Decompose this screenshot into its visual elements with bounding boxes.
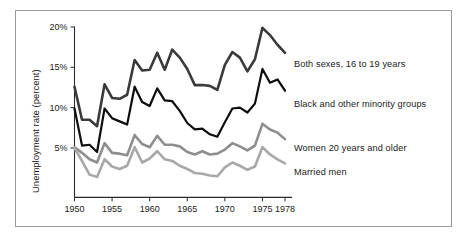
series-line-1 xyxy=(75,69,286,152)
line-chart-plot xyxy=(0,0,469,246)
series-line-3 xyxy=(75,147,286,177)
series-lines xyxy=(75,28,286,177)
series-line-2 xyxy=(75,124,286,163)
figure-container: Unemployment rate (percent) 5%10%15%20%1… xyxy=(0,0,469,246)
